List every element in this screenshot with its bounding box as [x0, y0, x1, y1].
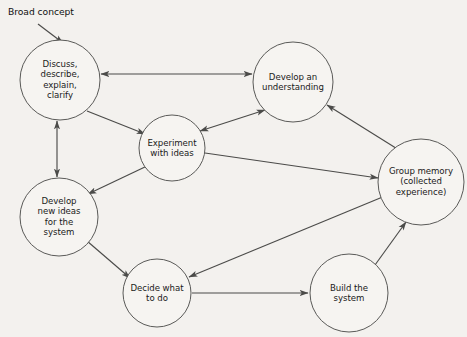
- edge-experiment-group-memory: [205, 153, 378, 178]
- diagram-graphics: [0, 0, 467, 337]
- node-discuss[interactable]: [20, 40, 100, 120]
- node-group-memory[interactable]: [378, 139, 464, 225]
- edge-group-memory-understanding: [327, 105, 399, 150]
- annotation-broad-concept: Broad concept: [8, 6, 74, 17]
- edge-new-ideas-decide: [87, 241, 130, 278]
- node-build[interactable]: [310, 254, 388, 332]
- diagram-canvas: Discuss, describe, explain, clarify Deve…: [0, 0, 467, 337]
- nodes-layer: [20, 40, 464, 332]
- edge-discuss-experiment: [87, 111, 145, 134]
- node-experiment[interactable]: [139, 115, 205, 181]
- node-develop-new-ideas[interactable]: [20, 178, 98, 256]
- edge-experiment-new-ideas: [88, 166, 147, 194]
- edge-experiment-understanding: [200, 110, 265, 131]
- edge-build-group-memory: [375, 222, 406, 265]
- node-decide[interactable]: [123, 259, 191, 327]
- node-develop-understanding[interactable]: [253, 42, 333, 122]
